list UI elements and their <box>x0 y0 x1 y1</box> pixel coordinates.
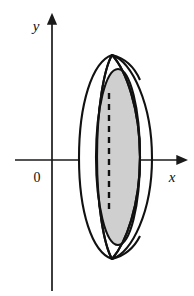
y-axis-label: y <box>31 18 40 34</box>
solid-of-revolution-body <box>79 55 152 259</box>
origin-label: 0 <box>34 170 41 185</box>
solid-of-revolution-figure: y x 0 <box>0 0 194 296</box>
x-axis-label: x <box>168 169 176 185</box>
figure-container: y x 0 <box>0 0 194 296</box>
shaded-cross-section-disk <box>96 69 140 245</box>
